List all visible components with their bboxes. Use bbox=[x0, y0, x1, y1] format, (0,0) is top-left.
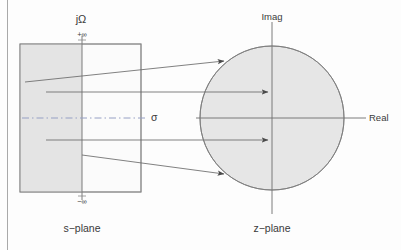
z-plane-caption: z−plane bbox=[253, 223, 290, 234]
s-plane-jomega-axis-label: jΩ bbox=[76, 14, 87, 25]
s-plane-caption: s−plane bbox=[63, 223, 100, 234]
figure-page: jΩ +∞ −∞ σ Imag Real s−plane z−plane bbox=[0, 0, 401, 250]
s-plane-positive-infinity-label: +∞ bbox=[77, 31, 87, 39]
s-plane-sigma-axis-label: σ bbox=[151, 112, 157, 123]
z-plane-real-axis-label: Real bbox=[369, 113, 389, 123]
s-plane-negative-infinity-label: −∞ bbox=[77, 198, 87, 206]
z-plane-imag-axis-label: Imag bbox=[261, 12, 282, 22]
splane-zplane-diagram bbox=[0, 0, 401, 250]
